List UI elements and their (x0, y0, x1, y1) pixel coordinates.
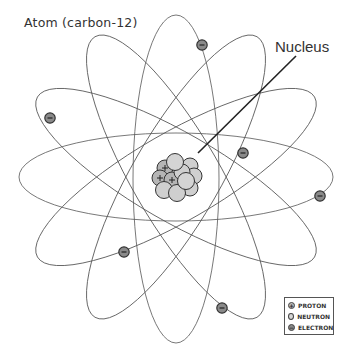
neutron-icon (288, 313, 294, 320)
neutron (167, 154, 184, 171)
electron-4 (315, 191, 325, 201)
proton-icon: + (288, 302, 295, 309)
atom-diagram: Atom (carbon-12) Nucleus + PROTON NEUTRO… (0, 0, 352, 352)
legend-label: NEUTRON (297, 313, 330, 320)
legend-item-proton: + PROTON (288, 300, 330, 311)
electron-1 (197, 40, 207, 50)
electron-6 (217, 303, 227, 313)
electron-2 (45, 113, 55, 123)
electron-5 (119, 247, 129, 257)
legend: + PROTON NEUTRON − ELECTRON (284, 297, 334, 335)
legend-item-neutron: NEUTRON (288, 311, 330, 322)
diagram-title: Atom (carbon-12) (24, 15, 138, 30)
legend-label: PROTON (298, 302, 326, 309)
nucleus-leader-line (198, 56, 296, 153)
electron-3 (238, 148, 248, 158)
nucleus-label: Nucleus (275, 38, 329, 55)
legend-item-electron: − ELECTRON (288, 322, 330, 333)
neutron (178, 173, 195, 190)
legend-label: ELECTRON (298, 324, 333, 331)
electron-icon: − (288, 324, 295, 331)
